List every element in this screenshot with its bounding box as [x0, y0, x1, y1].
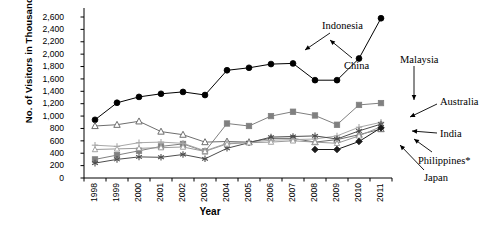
data-point-diamond: [312, 146, 319, 153]
data-point-circle: [246, 65, 252, 71]
data-point-circle: [202, 92, 208, 98]
data-point-circle: [378, 15, 384, 21]
chart-figure: No. of Visitors in Thousands Year 020040…: [0, 0, 498, 236]
data-point-square: [334, 122, 339, 127]
plot-area: [0, 0, 498, 236]
data-point-circle: [114, 100, 120, 106]
callout-label-india: India: [440, 128, 462, 139]
data-point-circle: [224, 67, 230, 73]
callout-label-australia: Australia: [440, 96, 479, 107]
data-point-circle: [334, 77, 340, 83]
data-point-square: [268, 113, 273, 118]
callout-arrow-head: [305, 45, 310, 50]
data-point-square: [378, 100, 383, 105]
data-point-diamond: [334, 146, 341, 153]
data-point-circle: [158, 91, 164, 97]
data-point-square: [312, 113, 317, 118]
series-japan: [312, 125, 385, 153]
callout-arrow-head: [412, 95, 417, 100]
data-point-square: [246, 123, 251, 128]
series-china: [92, 15, 384, 122]
data-point-circle: [180, 89, 186, 95]
data-point-circle: [290, 61, 296, 67]
callout-label-philippines: Philippines*: [418, 155, 471, 166]
data-point-square: [356, 102, 361, 107]
data-point-diamond: [356, 138, 363, 145]
data-point-circle: [268, 61, 274, 67]
series-malaysia: [92, 100, 383, 162]
callout-label-indonesia: Indonesia: [322, 20, 363, 31]
callout-arrow-head: [412, 129, 417, 134]
data-point-triangle: [136, 118, 142, 124]
data-point-square: [224, 121, 229, 126]
series-line: [95, 18, 381, 120]
callout-arrow-head: [414, 139, 419, 144]
callout-label-malaysia: Malaysia: [400, 54, 439, 65]
data-point-circle: [136, 94, 142, 100]
data-point-circle: [312, 77, 318, 83]
data-point-square: [290, 109, 295, 114]
callout-label-china: China: [344, 60, 369, 71]
data-point-triangle: [158, 128, 164, 134]
callout-label-japan: Japan: [424, 172, 448, 183]
